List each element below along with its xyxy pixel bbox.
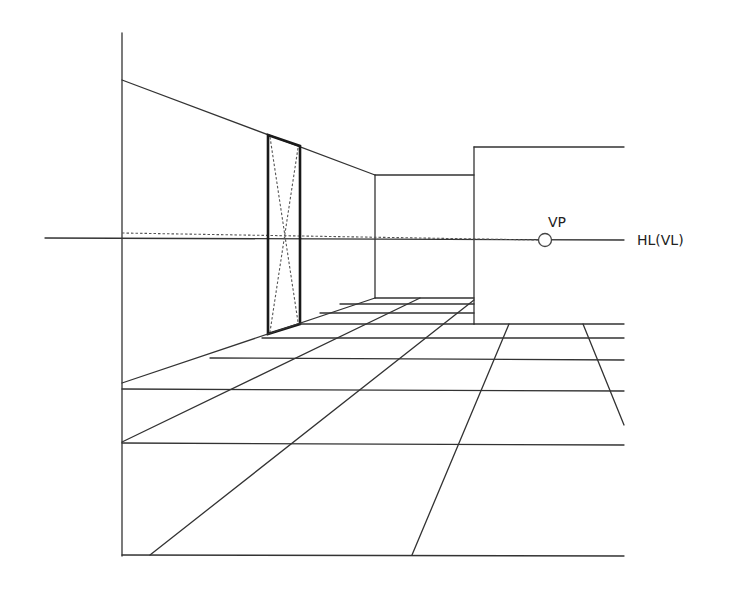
vp-label: VP — [548, 214, 566, 230]
horizon-line-label: HL(VL) — [637, 232, 684, 248]
door-opening — [268, 135, 300, 334]
vanishing-point-marker — [539, 234, 552, 247]
perspective-diagram: VP HL(VL) — [0, 0, 733, 592]
left-wall-top-edge — [122, 80, 375, 175]
back-wall — [375, 175, 474, 298]
floor-tile-grid — [122, 298, 624, 556]
